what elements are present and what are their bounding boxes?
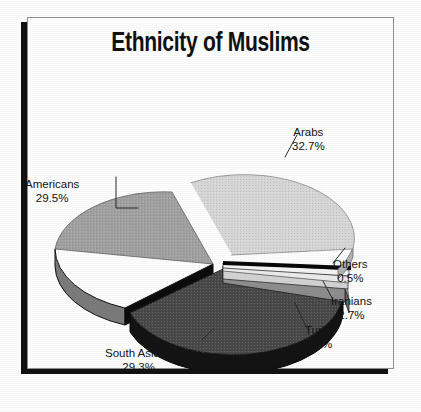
callout-turks-name: Turks <box>305 324 333 338</box>
pie-chart-figure: Ethnicity of Muslims <box>0 0 421 412</box>
callout-iranians-name: Iranians <box>331 295 372 309</box>
callout-others-percent: 0.5% <box>333 272 368 286</box>
callout-others: Others 0.5% <box>333 258 368 285</box>
callout-south-asians-percent: 29.3% <box>105 361 172 375</box>
callout-turks-percent: 5.3% <box>305 338 333 352</box>
callout-americans: Americans 29.5% <box>25 178 79 205</box>
callout-iranians-percent: 2.7% <box>331 309 372 323</box>
callout-others-name: Others <box>333 258 368 272</box>
callout-iranians: Iranians 2.7% <box>331 295 372 322</box>
callout-south-asians: South Asians 29.3% <box>105 347 172 374</box>
callout-arabs-percent: 32.7% <box>292 140 325 154</box>
callout-americans-percent: 29.5% <box>25 192 79 206</box>
callout-arabs: Arabs 32.7% <box>292 126 325 153</box>
callout-south-asians-name: South Asians <box>105 347 172 361</box>
callout-arabs-name: Arabs <box>292 126 325 140</box>
callout-americans-name: Americans <box>25 178 79 192</box>
callout-turks: Turks 5.3% <box>305 324 333 351</box>
page-title: Ethnicity of Muslims <box>67 27 353 58</box>
